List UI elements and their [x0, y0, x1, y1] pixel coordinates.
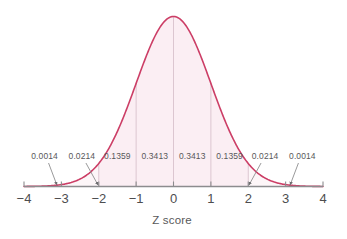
x-tick-label: 2 [245, 191, 252, 206]
x-tick-label: 1 [207, 191, 214, 206]
area-proportion-label: 0.3413 [179, 151, 206, 161]
x-tick-label: −2 [91, 191, 106, 206]
x-tick-label: −3 [54, 191, 69, 206]
area-proportion-label: 0.3413 [141, 151, 168, 161]
x-tick-label: 4 [319, 191, 326, 206]
x-tick-label: 3 [282, 191, 289, 206]
area-proportion-label: 0.0214 [69, 151, 96, 161]
x-tick-label: −4 [17, 191, 32, 206]
x-tick-label: −1 [129, 191, 144, 206]
area-proportion-label: 0.0214 [252, 151, 279, 161]
area-proportion-label: 0.1359 [216, 151, 243, 161]
x-tick-label: 0 [170, 191, 177, 206]
area-proportion-label: 0.0014 [31, 151, 58, 161]
callout-arrow [290, 163, 298, 185]
x-axis-title: Z score [152, 214, 192, 227]
callout-arrow [49, 163, 57, 185]
area-proportion-label: 0.0014 [289, 151, 316, 161]
normal-distribution-chart: 0.00140.02140.13590.34130.34130.13590.02… [0, 0, 347, 239]
area-proportion-label: 0.1359 [104, 151, 131, 161]
